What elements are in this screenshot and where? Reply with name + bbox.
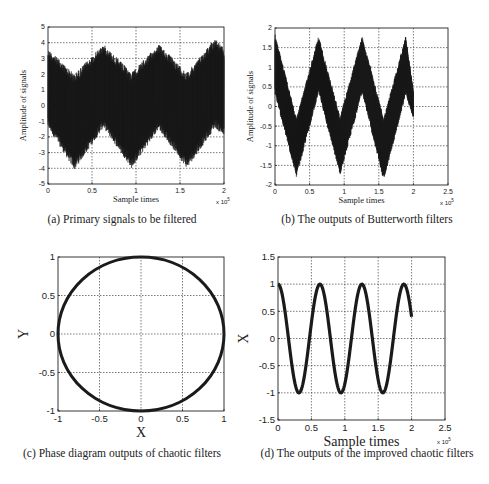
svg-text:-1.5: -1.5 <box>260 162 272 169</box>
svg-text:-1.5: -1.5 <box>259 414 275 425</box>
chart-panel-c: -1-0.500.51-1-0.500.51XY <box>16 251 227 440</box>
svg-text:-0.5: -0.5 <box>39 367 55 378</box>
svg-text:1: 1 <box>270 278 275 289</box>
svg-text:0: 0 <box>138 413 143 424</box>
svg-text:-0.5: -0.5 <box>259 360 275 371</box>
caption-a: (a) Primary signals to be filtered <box>47 213 196 225</box>
x-axis-label: Sample times <box>338 195 384 205</box>
chart-panel-b: 00.511.522.5-2-1.5-1-0.500.511.52Sample … <box>245 24 454 206</box>
figure: 00.511.52-5-4-3-2-1012345Sample timesAmp… <box>0 0 489 484</box>
svg-text:1: 1 <box>221 413 226 424</box>
grid-lines <box>278 257 445 420</box>
svg-text:0: 0 <box>273 188 277 195</box>
svg-text:0.5: 0.5 <box>176 413 189 424</box>
svg-text:-2: -2 <box>266 181 272 188</box>
svg-text:0: 0 <box>270 333 275 344</box>
svg-text:0.5: 0.5 <box>262 83 272 90</box>
caption-d: (d) The outputs of the improved chaotic … <box>261 447 474 459</box>
svg-text:1.5: 1.5 <box>175 187 185 194</box>
svg-text:1: 1 <box>134 187 138 194</box>
svg-text:2.5: 2.5 <box>438 422 451 433</box>
svg-text:0.5: 0.5 <box>262 306 275 317</box>
svg-text:2: 2 <box>411 188 415 195</box>
svg-text:1: 1 <box>41 86 45 93</box>
y-axis-label: Amplitude of signals <box>18 70 28 141</box>
svg-text:-1: -1 <box>267 387 275 398</box>
x-multiplier: x 105 <box>216 197 230 205</box>
svg-text:5: 5 <box>41 23 45 30</box>
svg-text:2.5: 2.5 <box>443 188 453 195</box>
svg-text:1.5: 1.5 <box>262 44 272 51</box>
svg-text:0: 0 <box>50 328 55 339</box>
svg-text:1: 1 <box>342 188 346 195</box>
svg-text:-0.5: -0.5 <box>260 123 272 130</box>
svg-text:0.5: 0.5 <box>305 422 318 433</box>
svg-text:1.5: 1.5 <box>262 251 275 262</box>
svg-text:-4: -4 <box>39 165 45 172</box>
svg-text:3: 3 <box>41 55 45 62</box>
svg-text:2: 2 <box>222 187 226 194</box>
svg-text:0: 0 <box>268 103 272 110</box>
svg-text:0.5: 0.5 <box>305 188 315 195</box>
svg-text:2: 2 <box>41 71 45 78</box>
svg-text:-1: -1 <box>266 142 272 149</box>
svg-text:-2: -2 <box>39 133 45 140</box>
svg-text:0: 0 <box>46 187 50 194</box>
svg-text:1.5: 1.5 <box>374 188 384 195</box>
svg-text:-1: -1 <box>47 405 55 416</box>
svg-text:-0.5: -0.5 <box>91 413 107 424</box>
svg-text:-1: -1 <box>54 413 62 424</box>
caption-c: (c) Phase diagram outputs of chaotic fil… <box>23 447 221 459</box>
svg-text:1: 1 <box>342 422 347 433</box>
y-axis-label: Y <box>16 329 31 339</box>
svg-text:1: 1 <box>50 251 55 262</box>
chart-panel-a: 00.511.52-5-4-3-2-1012345Sample timesAmp… <box>18 23 230 205</box>
svg-text:-1: -1 <box>39 118 45 125</box>
svg-text:-5: -5 <box>39 180 45 187</box>
svg-text:-3: -3 <box>39 149 45 156</box>
y-axis-label: Amplitude of signals <box>245 71 255 142</box>
data-series <box>48 40 224 169</box>
x-axis-label: X <box>136 425 146 440</box>
svg-text:4: 4 <box>41 39 45 46</box>
x-multiplier: x 105 <box>440 198 454 206</box>
x-axis-label: Sample times <box>113 194 159 204</box>
svg-text:1.5: 1.5 <box>372 422 385 433</box>
y-axis-label: X <box>236 333 251 343</box>
figure-canvas: 00.511.52-5-4-3-2-1012345Sample timesAmp… <box>0 0 489 484</box>
svg-text:0.5: 0.5 <box>87 187 97 194</box>
svg-text:0: 0 <box>41 102 45 109</box>
svg-text:0.5: 0.5 <box>42 290 55 301</box>
svg-text:1: 1 <box>268 64 272 71</box>
chart-panel-d: 00.511.522.5-1.5-1-0.500.511.5Sample tim… <box>236 251 452 449</box>
svg-text:2: 2 <box>409 422 414 433</box>
svg-text:0: 0 <box>275 422 280 433</box>
svg-text:2: 2 <box>268 24 272 31</box>
caption-b: (b) The outputs of Butterworth filters <box>281 213 452 225</box>
x-multiplier: x 105 <box>437 437 451 445</box>
